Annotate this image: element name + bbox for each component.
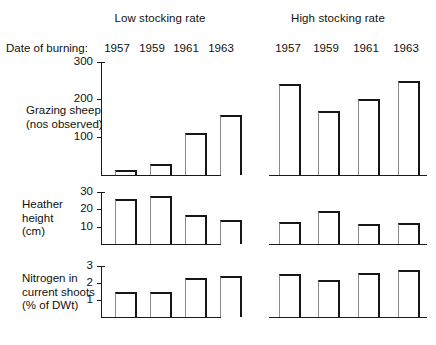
bar-grazing-sheep-low-1961 xyxy=(185,133,207,175)
bar-grazing-sheep-high-1963 xyxy=(398,81,420,175)
plot-heather-height-high xyxy=(269,192,427,245)
bar-nitrogen-low-1961 xyxy=(185,278,207,317)
x-axis-heather-height-low xyxy=(101,244,221,245)
y-tick-label-2: 2 xyxy=(87,276,93,288)
y-tick-100: 100 xyxy=(97,137,102,138)
y-tick-1: 1 xyxy=(97,300,102,301)
bar-nitrogen-high-1959 xyxy=(318,280,340,318)
bar-grazing-sheep-low-1957 xyxy=(115,170,137,175)
plot-nitrogen-high xyxy=(269,266,427,318)
y-tick-30: 30 xyxy=(97,192,102,193)
year-tick-high-1963: 1963 xyxy=(386,42,426,54)
bar-heather-height-low-1963 xyxy=(220,220,242,244)
panel-row-nitrogen: Nitrogen in current shoots (% of DWt) 3 … xyxy=(0,260,436,322)
plot-grazing-sheep-high xyxy=(269,62,427,176)
x-axis-heather-height-high xyxy=(269,244,427,245)
group-title-high-stocking: High stocking rate xyxy=(268,12,408,24)
y-tick-label-10: 10 xyxy=(80,220,93,232)
bar-grazing-sheep-low-1963 xyxy=(220,115,242,175)
x-axis-grazing-sheep-low xyxy=(101,175,221,176)
bar-heather-height-high-1959 xyxy=(318,211,340,244)
y-axis-heather-height xyxy=(101,192,102,245)
panel-row-grazing-sheep: Grazing sheep (nos observed) 300 200 100 xyxy=(0,56,436,178)
bar-heather-height-high-1961 xyxy=(358,224,380,244)
year-tick-high-1961: 1961 xyxy=(346,42,386,54)
year-tick-high-1957: 1957 xyxy=(268,42,308,54)
bar-grazing-sheep-high-1961 xyxy=(358,99,380,175)
x-axis-grazing-sheep-high xyxy=(269,175,427,176)
bar-heather-height-low-1957 xyxy=(115,199,137,244)
x-axis-nitrogen-high xyxy=(269,317,427,318)
bar-grazing-sheep-low-1959 xyxy=(150,164,172,175)
y-tick-label-200: 200 xyxy=(74,92,93,104)
bar-nitrogen-high-1963 xyxy=(398,270,420,317)
y-tick-300: 300 xyxy=(97,62,102,63)
bar-nitrogen-low-1957 xyxy=(115,292,137,318)
y-tick-2: 2 xyxy=(97,283,102,284)
year-tick-low-1961: 1961 xyxy=(166,42,206,54)
x-axis-nitrogen-low xyxy=(101,317,221,318)
bar-nitrogen-high-1961 xyxy=(358,273,380,317)
date-of-burning-label: Date of burning: xyxy=(6,42,88,54)
bar-heather-height-low-1961 xyxy=(185,215,207,245)
plot-heather-height-low: 30 20 10 xyxy=(101,192,221,245)
y-axis-nitrogen xyxy=(101,266,102,318)
year-tick-low-1963: 1963 xyxy=(201,42,241,54)
y-tick-label-30: 30 xyxy=(80,185,93,197)
y-tick-label-100: 100 xyxy=(74,130,93,142)
panel-row-heather-height: Heather height (cm) 30 20 10 xyxy=(0,186,436,248)
bar-heather-height-high-1957 xyxy=(279,222,301,244)
figure-canvas: Low stocking rate High stocking rate Dat… xyxy=(0,0,436,345)
bar-nitrogen-high-1957 xyxy=(279,274,301,318)
y-tick-20: 20 xyxy=(97,209,102,210)
bar-heather-height-low-1959 xyxy=(150,196,172,245)
y-tick-label-300: 300 xyxy=(74,55,93,67)
year-tick-high-1959: 1959 xyxy=(306,42,346,54)
bar-nitrogen-low-1963 xyxy=(220,276,242,317)
y-tick-label-20: 20 xyxy=(80,202,93,214)
group-title-low-stocking: Low stocking rate xyxy=(100,12,220,24)
bar-grazing-sheep-high-1959 xyxy=(318,111,340,175)
y-axis-grazing-sheep xyxy=(101,62,102,176)
y-tick-3: 3 xyxy=(97,266,102,267)
year-tick-low-1957: 1957 xyxy=(97,42,137,54)
y-tick-10: 10 xyxy=(97,227,102,228)
plot-grazing-sheep-low: 300 200 100 xyxy=(101,62,221,176)
y-tick-label-3: 3 xyxy=(87,259,93,271)
y-tick-label-1: 1 xyxy=(87,293,93,305)
bar-grazing-sheep-high-1957 xyxy=(279,84,301,175)
bar-heather-height-high-1963 xyxy=(398,223,420,244)
bar-nitrogen-low-1959 xyxy=(150,292,172,318)
plot-nitrogen-low: 3 2 1 xyxy=(101,266,221,318)
y-tick-200: 200 xyxy=(97,99,102,100)
